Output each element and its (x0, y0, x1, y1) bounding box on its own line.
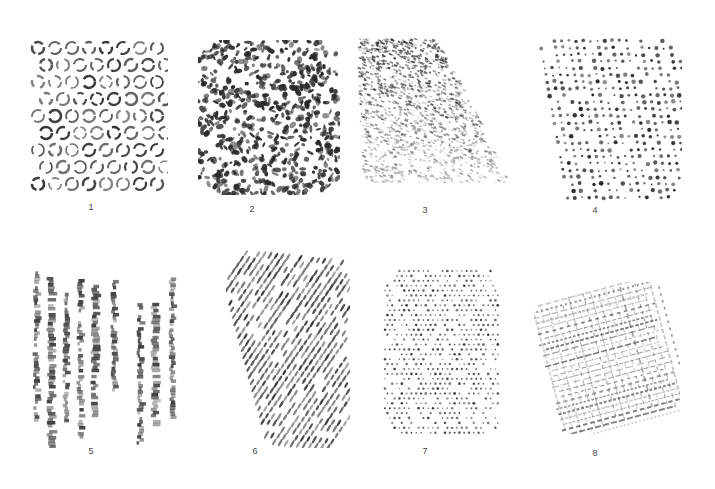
texture-sample-6 (226, 250, 350, 448)
crosshatch-grid-rubbing (534, 282, 680, 434)
diagonal-shaded-rubbing (356, 38, 516, 183)
sample-label-7: 7 (415, 446, 435, 456)
texture-sample-4 (536, 36, 682, 204)
diagonal-dots-rubbing (226, 250, 350, 448)
texture-sample-7 (382, 268, 500, 438)
sample-label-3: 3 (415, 205, 435, 215)
circles-rubbing (28, 38, 168, 198)
sample-label-6: 6 (245, 446, 265, 456)
vertical-streaks-rubbing (30, 252, 182, 448)
texture-sample-3 (356, 38, 516, 183)
texture-sample-5 (30, 252, 182, 448)
sample-label-8: 8 (585, 448, 605, 458)
fine-dots-rubbing (382, 268, 500, 438)
dense-blotches-rubbing (198, 40, 340, 195)
sample-label-5: 5 (81, 446, 101, 456)
sample-label-4: 4 (585, 205, 605, 215)
texture-sample-8 (534, 282, 680, 434)
sample-label-1: 1 (81, 202, 101, 212)
texture-sample-2 (198, 40, 340, 195)
texture-sample-1 (28, 38, 168, 198)
dot-grid-rubbing (536, 36, 682, 204)
sample-label-2: 2 (242, 204, 262, 214)
